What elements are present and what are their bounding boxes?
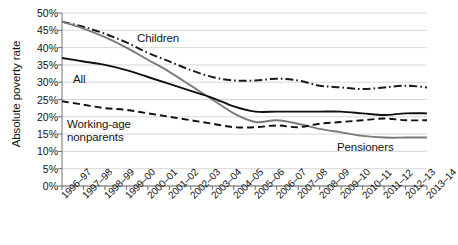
series-label-working-age-line2: nonparents bbox=[67, 131, 131, 144]
series-label-all: All bbox=[73, 73, 85, 86]
series-label-pensioners: Pensioners bbox=[337, 141, 394, 154]
series-label-working-age-line1: Working-age bbox=[67, 118, 131, 131]
series-label-working-age-nonparents: Working-age nonparents bbox=[67, 118, 131, 144]
y-axis-title: Absolute poverty rate bbox=[10, 4, 22, 184]
series-label-children: Children bbox=[137, 32, 179, 45]
